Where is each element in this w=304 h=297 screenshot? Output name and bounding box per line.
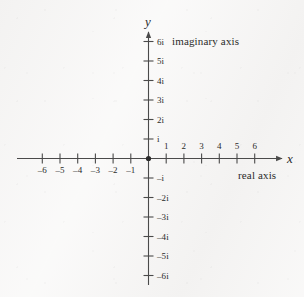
real-axis-caption: real axis bbox=[238, 170, 276, 181]
y-tick-label-2i: 2i bbox=[157, 115, 164, 124]
y-tick-label-4i: 4i bbox=[157, 76, 164, 85]
axes-svg bbox=[0, 0, 304, 297]
y-tick-label-neg-4i: –4i bbox=[157, 232, 169, 241]
x-tick-label-neg-4: –4 bbox=[73, 166, 82, 175]
x-tick-label-neg-6: –6 bbox=[38, 166, 47, 175]
x-tick-label-neg-2: –2 bbox=[108, 166, 117, 175]
x-tick-label-neg-3: –3 bbox=[91, 166, 100, 175]
imaginary-axis-caption: imaginary axis bbox=[172, 36, 239, 47]
y-tick-label-6i: 6i bbox=[157, 37, 164, 46]
complex-plane-figure: y x imaginary axis real axis –6 –5 –4 –3… bbox=[0, 0, 304, 297]
x-tick-label-5: 5 bbox=[235, 142, 240, 151]
x-tick-label-2: 2 bbox=[182, 142, 187, 151]
y-tick-label-neg-5i: –5i bbox=[157, 252, 169, 261]
x-tick-label-6: 6 bbox=[252, 142, 257, 151]
y-tick-label-neg-i: –i bbox=[157, 174, 164, 183]
x-tick-label-1: 1 bbox=[164, 142, 169, 151]
y-tick-label-neg-2i: –2i bbox=[157, 193, 169, 202]
y-tick-label-i: i bbox=[157, 135, 160, 144]
y-tick-label-neg-3i: –3i bbox=[157, 213, 169, 222]
y-tick-label-5i: 5i bbox=[157, 57, 164, 66]
x-tick-label-neg-1: –1 bbox=[126, 166, 135, 175]
x-axis-variable-label: x bbox=[287, 152, 293, 165]
x-tick-label-4: 4 bbox=[217, 142, 222, 151]
y-axis-variable-label: y bbox=[145, 15, 151, 28]
x-tick-label-neg-5: –5 bbox=[55, 166, 64, 175]
y-tick-label-3i: 3i bbox=[157, 96, 164, 105]
y-tick-label-neg-6i: –6i bbox=[157, 271, 169, 280]
origin-marker bbox=[146, 156, 151, 161]
x-tick-label-3: 3 bbox=[199, 142, 204, 151]
